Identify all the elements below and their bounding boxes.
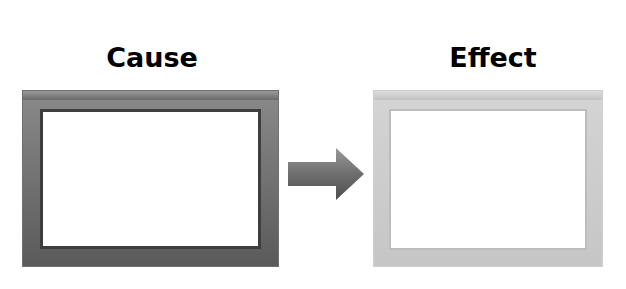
effect-box-content [389,109,587,250]
cause-box-content [40,109,261,249]
cause-label: Cause [100,42,204,73]
cause-box [22,90,279,267]
effect-label: Effect [443,42,543,73]
right-arrow-icon [288,148,364,200]
effect-box [373,90,603,267]
